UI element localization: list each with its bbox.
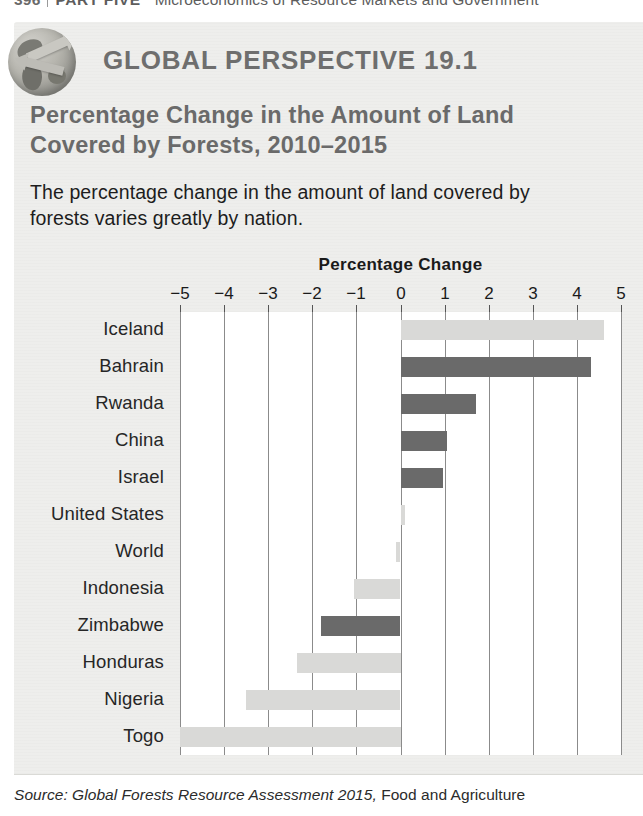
x-tick-label-5: 5 — [601, 284, 641, 304]
bar-chart-plot-area — [180, 312, 621, 755]
x-tick-label--2: −2 — [292, 284, 332, 304]
tickmark-3 — [533, 305, 534, 312]
tickmark-5 — [621, 305, 622, 312]
bar-indonesia — [354, 579, 400, 599]
x-tick-label--1: −1 — [336, 284, 376, 304]
bar-china — [401, 431, 447, 451]
bar-israel — [401, 468, 443, 488]
x-tick-label-3: 3 — [513, 284, 553, 304]
category-label-zimbabwe: Zimbabwe — [77, 614, 164, 636]
x-tick-label-2: 2 — [469, 284, 509, 304]
box-title-line-1: Percentage Change in the Amount of Land — [30, 101, 605, 131]
gridline-3 — [533, 312, 534, 755]
category-label-honduras: Honduras — [83, 651, 164, 673]
bar-bahrain — [401, 357, 591, 377]
x-tick-label-4: 4 — [557, 284, 597, 304]
category-label-israel: Israel — [118, 466, 164, 488]
source-note: Source: Global Forests Resource Assessme… — [14, 786, 643, 804]
tickmark-4 — [577, 305, 578, 312]
bar-zimbabwe — [321, 616, 400, 636]
bar-world — [396, 542, 400, 562]
box-kicker: GLOBAL PERSPECTIVE 19.1 — [103, 45, 478, 76]
bar-nigeria — [246, 690, 400, 710]
chart-title: Percentage Change — [180, 255, 621, 275]
gridline-2 — [489, 312, 490, 755]
category-label-nigeria: Nigeria — [104, 688, 164, 710]
gridline-5 — [621, 312, 622, 755]
tickmark-2 — [489, 305, 490, 312]
x-tick-label--4: −4 — [204, 284, 244, 304]
gridline--1 — [356, 312, 357, 755]
bar-honduras — [297, 653, 401, 673]
box-description: The percentage change in the amount of l… — [30, 180, 610, 232]
tickmark--1 — [356, 305, 357, 312]
category-label-rwanda: Rwanda — [95, 392, 164, 414]
bar-rwanda — [401, 394, 476, 414]
bar-united-states — [401, 505, 405, 525]
box-title: Percentage Change in the Amount of Land … — [30, 101, 605, 160]
category-label-united-states: United States — [51, 503, 164, 525]
running-head: 396PART FIVEMicroeconomics of Resource M… — [14, 0, 643, 13]
category-label-china: China — [115, 429, 164, 451]
gridline-0 — [401, 312, 402, 755]
box-title-line-2: Covered by Forests, 2010–2015 — [30, 131, 605, 161]
category-label-world: World — [115, 540, 164, 562]
y-axis-category-labels: IcelandBahrainRwandaChinaIsraelUnited St… — [14, 312, 172, 755]
category-label-togo: Togo — [123, 725, 164, 747]
gridline--5 — [180, 312, 181, 755]
tickmark-0 — [401, 305, 402, 312]
gridline-1 — [445, 312, 446, 755]
box-description-line-2: forests varies greatly by nation. — [30, 206, 610, 232]
source-title: Source: Global Forests Resource Assessme… — [14, 786, 377, 803]
source-publisher: Food and Agriculture — [377, 786, 525, 803]
x-tick-label-0: 0 — [381, 284, 421, 304]
tickmark--5 — [180, 305, 181, 312]
tickmark-1 — [445, 305, 446, 312]
box-description-line-1: The percentage change in the amount of l… — [30, 180, 610, 206]
gridline--3 — [268, 312, 269, 755]
category-label-indonesia: Indonesia — [82, 577, 164, 599]
x-tick-label--3: −3 — [248, 284, 288, 304]
x-tick-label-1: 1 — [425, 284, 465, 304]
page-number: 396 — [14, 0, 40, 8]
gridline-4 — [577, 312, 578, 755]
running-head-rule — [47, 0, 48, 7]
part-label: PART FIVE — [55, 0, 140, 8]
tickmark--3 — [268, 305, 269, 312]
part-subject: Microeconomics of Resource Markets and G… — [155, 0, 539, 8]
bar-iceland — [401, 320, 604, 340]
tickmark--4 — [224, 305, 225, 312]
x-tick-label--5: −5 — [160, 284, 200, 304]
panel-bottom-divider — [14, 774, 643, 775]
globe-icon — [8, 28, 76, 96]
category-label-bahrain: Bahrain — [99, 355, 164, 377]
tickmark--2 — [312, 305, 313, 312]
gridline--4 — [224, 312, 225, 755]
bar-togo — [180, 727, 401, 747]
gridline--2 — [312, 312, 313, 755]
category-label-iceland: Iceland — [103, 318, 164, 340]
